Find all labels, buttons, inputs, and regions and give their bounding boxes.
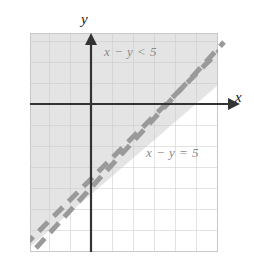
equation-label: x − y = 5 <box>146 145 199 161</box>
inequality-label: x − y < 5 <box>104 44 157 60</box>
grid-lines <box>30 33 218 252</box>
coordinate-plane-svg <box>0 0 254 279</box>
graph-figure: x − y < 5 x − y = 5 y x <box>0 0 254 279</box>
grid-area <box>24 0 226 252</box>
y-axis-label: y <box>81 11 88 28</box>
x-axis-label: x <box>235 89 242 106</box>
